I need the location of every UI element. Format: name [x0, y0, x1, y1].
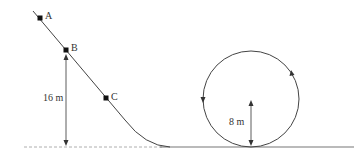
radius-label: 8 m	[229, 116, 245, 127]
point-c: C	[104, 91, 119, 102]
incline-track	[33, 11, 170, 147]
radius-dimension-arrow	[249, 100, 254, 146]
height-label: 16 m	[43, 92, 64, 103]
roller-coaster-loop-diagram: A B C 16 m 8 m	[0, 0, 354, 158]
point-a: A	[38, 10, 54, 21]
point-c-label: C	[111, 91, 118, 102]
point-a-label: A	[45, 10, 53, 21]
point-b-label: B	[71, 42, 78, 53]
loop-direction-arrow-left	[201, 97, 206, 103]
point-b: B	[64, 42, 79, 53]
height-dimension-arrow	[64, 54, 69, 146]
